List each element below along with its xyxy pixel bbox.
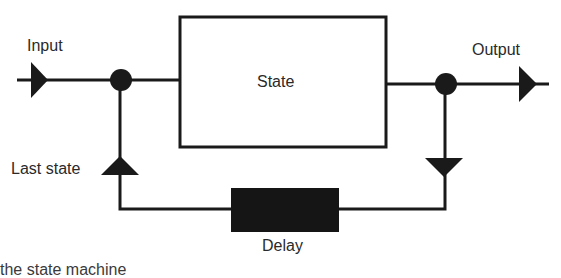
caption-text: the state machine xyxy=(0,262,126,278)
delay-box xyxy=(231,188,339,232)
input-arrow-icon xyxy=(31,62,48,98)
input-label: Input xyxy=(27,38,63,54)
feedback-down-arrow-icon xyxy=(425,158,463,177)
state-label: State xyxy=(257,74,294,90)
last-state-up-arrow-icon xyxy=(101,156,139,175)
output-label: Output xyxy=(472,42,520,58)
last-state-label: Last state xyxy=(11,161,80,177)
output-arrow-icon xyxy=(519,66,537,102)
delay-label: Delay xyxy=(262,238,303,254)
